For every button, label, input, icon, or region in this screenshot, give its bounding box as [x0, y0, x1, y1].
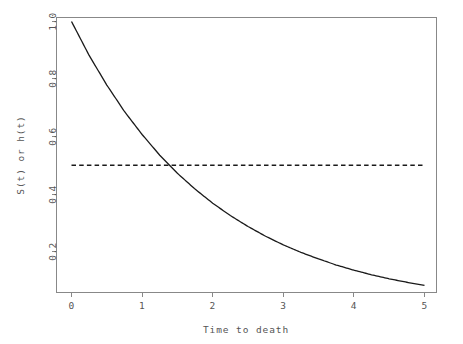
- y-tick-label-0.8: 0.8: [47, 69, 58, 88]
- x-axis-title: Time to death: [203, 324, 289, 335]
- x-axis-tick-labels: 0 1 2 3 4 5: [68, 300, 427, 311]
- x-tick-label-5: 5: [421, 300, 427, 311]
- figure-container: 1.0 0.8 0.6 0.4 0.2 0 1 2 3 4 5 Time to …: [0, 0, 463, 344]
- y-tick-label-1.0: 1.0: [47, 12, 58, 31]
- y-axis-title: S(t) or h(t): [15, 115, 26, 194]
- y-tick-label-0.6: 0.6: [47, 127, 58, 146]
- y-tick-label-0.2: 0.2: [47, 242, 58, 261]
- x-tick-label-4: 4: [351, 300, 357, 311]
- survival-hazard-plot: 1.0 0.8 0.6 0.4 0.2 0 1 2 3 4 5 Time to …: [0, 0, 463, 344]
- x-tick-label-2: 2: [210, 300, 216, 311]
- x-axis-ticks: [72, 293, 425, 298]
- plot-frame: [57, 18, 437, 293]
- x-tick-label-3: 3: [280, 300, 286, 311]
- x-tick-label-1: 1: [139, 300, 145, 311]
- series-line-survival: [72, 22, 425, 286]
- x-tick-label-0: 0: [68, 300, 74, 311]
- y-tick-label-0.4: 0.4: [47, 185, 58, 204]
